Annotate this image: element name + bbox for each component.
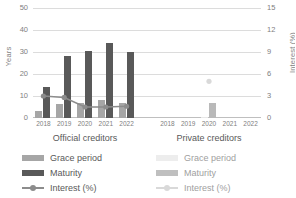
y-tick-right-9: 9 — [267, 48, 287, 56]
legend-container: Grace period Maturity Interest (%) Grace… — [0, 150, 295, 198]
bar-slot-private-2018 — [157, 8, 178, 118]
y-tick-left-0: 0 — [6, 114, 28, 122]
legend-item-official-grace[interactable]: Grace period — [22, 150, 162, 165]
y-tick-left-30: 30 — [6, 48, 28, 56]
bar-grace-official-2021[interactable] — [98, 100, 105, 118]
group-label-private: Private creditors — [157, 133, 261, 143]
x-tick-private-2021: 2021 — [219, 120, 240, 127]
group-label-official: Official creditors — [33, 133, 137, 143]
legend-label-private-interest: Interest (%) — [184, 183, 231, 193]
x-tick-official-2018: 2018 — [33, 120, 54, 127]
bar-slot-official-2020 — [75, 8, 96, 118]
bar-maturity-private-2020[interactable] — [209, 103, 216, 118]
bar-slot-official-2022 — [116, 8, 137, 118]
legend-line-marker-icon — [22, 184, 44, 192]
bar-grace-official-2018[interactable] — [35, 111, 42, 118]
x-axis-group-official: 2018 2019 2020 2021 2022 Official credit… — [33, 120, 137, 143]
bar-slot-private-2021 — [219, 8, 240, 118]
legend-line-marker-icon — [156, 184, 178, 192]
legend-label-private-grace: Grace period — [184, 153, 236, 163]
legend-official: Grace period Maturity Interest (%) — [22, 150, 162, 195]
legend-item-private-maturity[interactable]: Maturity — [156, 165, 295, 180]
y-tick-right-6: 6 — [267, 70, 287, 78]
legend-item-official-interest[interactable]: Interest (%) — [22, 180, 162, 195]
y-tick-right-15: 15 — [267, 4, 287, 12]
bar-slot-official-2018 — [33, 8, 54, 118]
y-tick-right-3: 3 — [267, 92, 287, 100]
legend-swatch-grace-icon — [156, 155, 178, 161]
bar-grace-official-2022[interactable] — [119, 103, 126, 118]
x-tick-private-2019: 2019 — [178, 120, 199, 127]
legend-swatch-maturity-icon — [22, 170, 44, 176]
bar-slot-private-2022 — [240, 8, 261, 118]
bar-maturity-official-2021[interactable] — [106, 43, 113, 118]
bar-slot-private-2019 — [178, 8, 199, 118]
bar-grace-official-2020[interactable] — [77, 103, 84, 118]
bar-grace-official-2019[interactable] — [56, 104, 63, 118]
bar-group-official — [33, 8, 137, 118]
legend-label-official-interest: Interest (%) — [50, 183, 97, 193]
x-tick-private-2018: 2018 — [157, 120, 178, 127]
bar-slot-official-2021 — [95, 8, 116, 118]
legend-swatch-grace-icon — [22, 155, 44, 161]
legend-item-private-grace[interactable]: Grace period — [156, 150, 295, 165]
y-tick-left-10: 10 — [6, 92, 28, 100]
x-axis-group-private: 2018 2019 2020 2021 2022 Private credito… — [157, 120, 261, 143]
bar-maturity-official-2018[interactable] — [43, 87, 50, 118]
y-tick-left-40: 40 — [6, 26, 28, 34]
y-tick-left-50: 50 — [6, 4, 28, 12]
legend-private: Grace period Maturity Interest (%) — [156, 150, 295, 195]
y-axis-right-title: Interest (%) — [288, 29, 296, 77]
chart-container: Years Interest (%) 50 40 30 20 10 0 15 1… — [0, 0, 295, 198]
x-tick-private-2020: 2020 — [199, 120, 220, 127]
x-tick-official-2022: 2022 — [116, 120, 137, 127]
x-tick-official-2020: 2020 — [75, 120, 96, 127]
legend-label-official-maturity: Maturity — [50, 168, 82, 178]
bar-slot-private-2020 — [199, 8, 220, 118]
plot-area: 50 40 30 20 10 0 15 12 9 6 3 0 — [33, 8, 261, 118]
legend-item-official-maturity[interactable]: Maturity — [22, 165, 162, 180]
bar-maturity-official-2022[interactable] — [127, 52, 134, 118]
legend-label-official-grace: Grace period — [50, 153, 102, 163]
y-tick-right-12: 12 — [267, 26, 287, 34]
y-tick-left-20: 20 — [6, 70, 28, 78]
x-tick-private-2022: 2022 — [240, 120, 261, 127]
y-tick-right-0: 0 — [267, 114, 287, 122]
x-tick-official-2021: 2021 — [95, 120, 116, 127]
bar-slot-official-2019 — [54, 8, 75, 118]
legend-swatch-maturity-icon — [156, 170, 178, 176]
bar-maturity-official-2020[interactable] — [85, 51, 92, 118]
legend-item-private-interest[interactable]: Interest (%) — [156, 180, 295, 195]
x-axis: 2018 2019 2020 2021 2022 Official credit… — [33, 120, 261, 146]
bar-maturity-official-2019[interactable] — [64, 56, 71, 118]
legend-label-private-maturity: Maturity — [184, 168, 216, 178]
bar-group-private — [157, 8, 261, 118]
bar-grace-private-2020[interactable] — [201, 117, 208, 118]
x-tick-official-2019: 2019 — [54, 120, 75, 127]
